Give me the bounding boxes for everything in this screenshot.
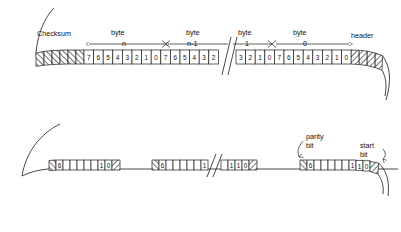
parity-bit-callout: parity bit [298, 132, 324, 157]
top-strip-right-tail [382, 56, 390, 100]
bottom-frame-middle: 6 1 [152, 160, 208, 170]
bit-cell-label: 5 [183, 54, 187, 61]
bit-cell-label: 6 [58, 162, 62, 169]
bit-cell-label: 0 [154, 54, 158, 61]
label-byte-n-word: byte [111, 28, 125, 37]
label-byte-n-index: n [122, 39, 126, 48]
bit-cell-label: 2 [325, 54, 329, 61]
bit-cell-label: 6 [309, 162, 313, 169]
byte-1-cells: 3 2 1 0 [236, 50, 274, 64]
bottom-frame-left: 6 1 0 [49, 160, 120, 171]
bit-cell-label: 0 [268, 54, 272, 61]
dimension-byte-n: byte n [89, 28, 170, 48]
bit-cell-label: 1 [351, 162, 355, 169]
bit-cell-label: 1 [358, 163, 362, 170]
bit-cell-label: 2 [249, 54, 253, 61]
bit-cell-label: 0 [345, 54, 349, 61]
bit-cell-label: 1 [258, 54, 262, 61]
byte-0-cells: 7 6 5 4 3 2 1 0 [274, 50, 351, 64]
bit-cell-label: 1 [335, 54, 339, 61]
label-byte-n1-index: n-1 [187, 39, 197, 48]
bit-cell-label: 6 [161, 162, 165, 169]
dimension-byte-n-minus-1: byte n-1 [170, 28, 228, 48]
bit-cell-label: 1 [203, 162, 207, 169]
bit-cell-label: 6 [287, 54, 291, 61]
header-cells [351, 50, 382, 70]
bit-cell-label: 2 [135, 54, 139, 61]
label-byte-1-index: 1 [245, 39, 249, 48]
bit-cell-label: 0 [244, 162, 248, 169]
bit-cell-label: 1 [230, 162, 234, 169]
bit-cell-label: 4 [306, 54, 310, 61]
serial-stream-diagram: Checksum 7 6 5 4 3 2 1 0 [0, 0, 401, 232]
label-byte-1-word: byte [238, 28, 252, 37]
byte-n-cells: 7 6 5 4 3 2 1 0 [84, 50, 161, 64]
label-start-bit-line2: bit [360, 150, 368, 159]
bottom-frame-right: 6 1 1 0 [300, 160, 379, 174]
label-byte-0-word: byte [293, 28, 307, 37]
label-parity-bit-line1: parity [306, 132, 324, 141]
bottom-strip-right-tail-inner [378, 174, 383, 194]
label-header: header [351, 31, 374, 40]
checksum-cells [36, 50, 84, 66]
bit-cell-label: 1 [100, 162, 104, 169]
bit-cell-label: 3 [202, 54, 206, 61]
bit-cell-label: 0 [107, 162, 111, 169]
label-byte-0-index: 0 [303, 39, 307, 48]
bit-cell-label: 1 [237, 162, 241, 169]
bit-cell-label: 5 [297, 54, 301, 61]
label-checksum: Checksum [37, 29, 71, 38]
top-strip: Checksum 7 6 5 4 3 2 1 0 [36, 8, 390, 100]
bit-cell-label: 3 [316, 54, 320, 61]
bit-cell-label: 3 [125, 54, 129, 61]
dimension-byte-1: byte 1 [233, 28, 276, 48]
bottom-break-mark [207, 154, 222, 177]
label-parity-bit-line2: bit [306, 141, 314, 150]
start-bit-callout: start bit [360, 141, 385, 159]
dimension-byte-0: byte 0 [276, 28, 349, 48]
bit-cell-label: 6 [173, 54, 177, 61]
bottom-frame-middle-tail: 1 1 0 [221, 160, 257, 170]
bit-cell-label: 3 [239, 54, 243, 61]
bit-cell-label: 4 [116, 54, 120, 61]
bit-cell-label: 7 [87, 54, 91, 61]
bit-cell-label: 6 [97, 54, 101, 61]
label-start-bit-line1: start [360, 141, 374, 150]
bit-cell-label: 1 [145, 54, 149, 61]
bottom-strip: 6 1 0 6 1 1 [22, 124, 398, 196]
bit-cell-label: 5 [106, 54, 110, 61]
bit-cell-label: 7 [164, 54, 168, 61]
top-break-mark [208, 37, 237, 75]
bit-cell-label: 4 [193, 54, 197, 61]
label-byte-n1-word: byte [186, 28, 200, 37]
bit-cell-label: 7 [277, 54, 281, 61]
bit-cell-label: 0 [365, 163, 369, 170]
